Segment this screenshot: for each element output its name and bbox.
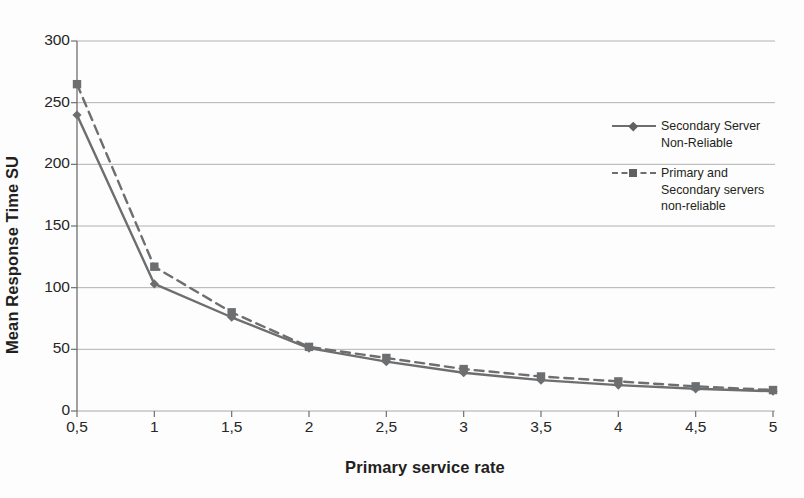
chart-legend: Secondary Server Non-Reliable Primary an…: [612, 118, 797, 229]
y-tick-label: 50: [26, 339, 70, 357]
legend-label-secondary-server: Secondary Server Non-Reliable: [661, 118, 797, 151]
legend-item-primary-and-secondary[interactable]: Primary and Secondary servers non-reliab…: [612, 165, 797, 215]
legend-marker-square-dashed-icon: [612, 166, 656, 180]
y-tick-label: 250: [26, 93, 70, 111]
x-tick-label: 4: [614, 418, 623, 436]
y-tick-label: 0: [26, 401, 70, 419]
legend-label-line-1: Primary and: [661, 166, 728, 180]
legend-label-line-3: non-reliable: [661, 199, 726, 213]
x-tick-label: 3: [459, 418, 468, 436]
x-tick-label: 2,5: [376, 418, 398, 436]
legend-label-line-1: Secondary Server: [661, 119, 760, 133]
y-tick-label: 150: [26, 216, 70, 234]
x-tick-label: 1,5: [221, 418, 243, 436]
x-tick-label: 0,5: [66, 418, 88, 436]
legend-item-secondary-server[interactable]: Secondary Server Non-Reliable: [612, 118, 797, 151]
legend-marker-diamond-solid-icon: [612, 119, 656, 133]
x-tick-label: 4,5: [685, 418, 707, 436]
y-axis-tick-labels: 050100150200250300: [0, 0, 70, 498]
chart-figure: Mean Response Time SU Primary service ra…: [0, 0, 804, 498]
legend-label-line-2: Non-Reliable: [661, 136, 733, 150]
legend-label-line-2: Secondary servers: [661, 183, 764, 197]
y-tick-label: 300: [26, 31, 70, 49]
legend-label-primary-and-secondary: Primary and Secondary servers non-reliab…: [661, 165, 797, 215]
x-tick-label: 5: [769, 418, 778, 436]
line-chart-plot: [0, 0, 804, 498]
y-tick-label: 100: [26, 278, 70, 296]
x-tick-label: 3,5: [530, 418, 552, 436]
x-tick-label: 2: [305, 418, 314, 436]
x-axis-title: Primary service rate: [77, 458, 773, 477]
y-tick-label: 200: [26, 154, 70, 172]
x-tick-label: 1: [150, 418, 159, 436]
